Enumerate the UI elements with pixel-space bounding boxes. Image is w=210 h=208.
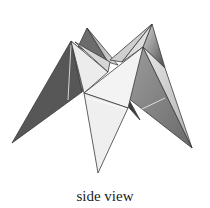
left-wing-dark xyxy=(12,41,82,143)
figure-caption: side view xyxy=(0,188,210,205)
origami-figure xyxy=(0,0,210,185)
origami-drawing xyxy=(0,0,210,185)
